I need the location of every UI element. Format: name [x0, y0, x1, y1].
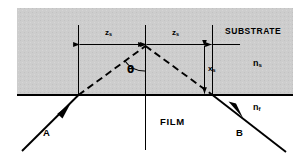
- incoming-ray-a: [22, 95, 79, 151]
- outgoing-ray-b: [213, 95, 287, 152]
- dimension-label-left-zs: zs: [105, 29, 112, 38]
- left-zs-subscript: s: [109, 31, 112, 37]
- substrate-label: SUBSTRATE: [225, 27, 281, 36]
- right-zs-subscript: s: [176, 31, 179, 37]
- film-index-label: nf: [253, 103, 261, 112]
- figure-root: SUBSTRATE FILM ns nf zs zs xs θ A B: [0, 0, 307, 162]
- dimension-label-xs: xs: [208, 65, 215, 74]
- ray-label-b: B: [236, 128, 243, 138]
- xs-subscript: s: [212, 67, 215, 73]
- substrate-index-label: ns: [253, 59, 262, 68]
- angle-label-theta: θ: [127, 64, 134, 75]
- substrate-index-subscript: s: [259, 61, 262, 68]
- substrate-region: [17, 8, 293, 95]
- film-label: FILM: [160, 117, 185, 127]
- dimension-label-right-zs: zs: [172, 29, 179, 38]
- ray-label-a: A: [43, 128, 50, 138]
- film-index-subscript: f: [259, 105, 261, 112]
